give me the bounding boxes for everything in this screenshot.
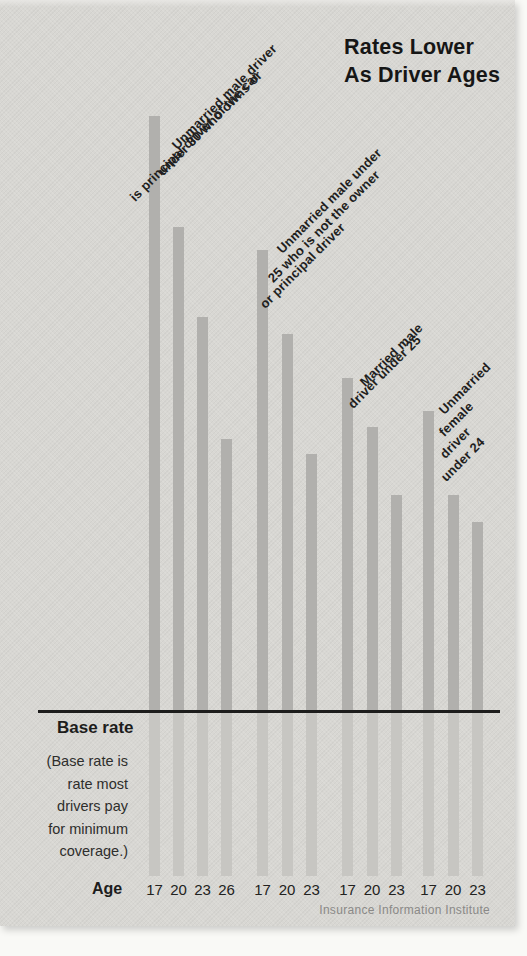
age-tick-label: 20 [274, 881, 300, 898]
bar-below-base [306, 713, 317, 876]
bar [282, 334, 293, 711]
bar-below-base [149, 713, 160, 876]
bar [391, 495, 402, 711]
group-label-line: driver under 25 [345, 332, 425, 412]
age-tick-label: 23 [384, 881, 410, 898]
bar [257, 250, 268, 711]
bar [306, 454, 317, 711]
age-tick-label: 17 [142, 881, 168, 898]
age-tick-label: 17 [250, 881, 276, 898]
age-tick-label: 23 [465, 881, 491, 898]
bar [197, 317, 208, 711]
bar [423, 411, 434, 711]
age-tick-label: 26 [214, 881, 240, 898]
bar-below-base [423, 713, 434, 876]
base-rate-line [38, 710, 500, 713]
bar [342, 378, 353, 711]
age-tick-label: 23 [190, 881, 216, 898]
bar-below-base [342, 713, 353, 876]
age-tick-label: 20 [166, 881, 192, 898]
base-rate-label: Base rate [57, 718, 134, 738]
scanned-chart-page: Rates Lower As Driver Ages Unmarried mal… [0, 0, 515, 926]
source-credit: Insurance Information Institute [300, 903, 490, 917]
bar [173, 227, 184, 711]
bar [448, 495, 459, 711]
age-tick-label: 20 [440, 881, 466, 898]
age-tick-label: 17 [416, 881, 442, 898]
bar [472, 522, 483, 711]
bar-below-base [472, 713, 483, 876]
bar-below-base [282, 713, 293, 876]
chart-title-line1: Rates Lower [344, 33, 500, 61]
bar-below-base [391, 713, 402, 876]
bar [221, 439, 232, 711]
bar [149, 116, 160, 711]
bar-below-base [367, 713, 378, 876]
age-axis-label: Age [92, 880, 122, 898]
bar-below-base [173, 713, 184, 876]
bar-below-base [448, 713, 459, 876]
age-tick-label: 23 [299, 881, 325, 898]
bar-below-base [257, 713, 268, 876]
bar [367, 427, 378, 711]
age-tick-label: 20 [359, 881, 385, 898]
chart-title: Rates Lower As Driver Ages [344, 33, 500, 89]
base-rate-note: (Base rate is rate most drivers pay for … [26, 750, 128, 863]
chart-title-line2: As Driver Ages [344, 61, 500, 89]
age-tick-label: 17 [335, 881, 361, 898]
bar-below-base [197, 713, 208, 876]
group-label-line: 25 who is not the owner [265, 167, 384, 286]
group-label-line: is principal driver of the car [127, 69, 263, 205]
bar-below-base [221, 713, 232, 876]
